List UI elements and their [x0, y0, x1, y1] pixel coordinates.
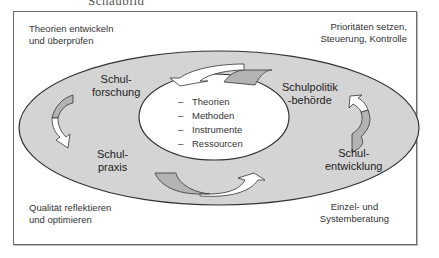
list-item: –Theorien [178, 95, 243, 109]
corner-line: Theorien entwickeln [29, 23, 114, 35]
node-line: forschung [92, 86, 140, 99]
corner-line: Prioritäten setzen, [320, 21, 407, 33]
node-line: -behörde [282, 94, 338, 107]
list-item-label: Instrumente [192, 124, 242, 135]
node-schulpolitik: Schulpolitik -behörde [282, 81, 338, 107]
node-schulentwicklung: Schul- entwicklung [325, 147, 382, 173]
bullet: – [178, 137, 192, 151]
corner-label-top-left: Theorien entwickeln und überprüfen [29, 23, 114, 47]
corner-line: und überprüfen [29, 35, 114, 47]
node-schulpraxis: Schul- praxis [97, 148, 128, 174]
list-item-label: Ressourcen [192, 138, 243, 149]
corner-line: und optimieren [29, 214, 111, 226]
node-schulforschung: Schul- forschung [92, 73, 140, 99]
node-line: Schul- [325, 147, 382, 160]
list-item-label: Methoden [192, 110, 234, 121]
list-item-label: Theorien [192, 96, 230, 107]
corner-label-bottom-right: Einzel- und Systemberatung [320, 201, 389, 225]
bullet: – [178, 109, 192, 123]
node-line: praxis [97, 161, 128, 174]
corner-line: Steuerung, Kontrolle [320, 33, 407, 45]
corner-line: Qualität reflektieren [29, 202, 111, 214]
node-line: Schul- [97, 148, 128, 161]
list-item: –Instrumente [178, 123, 243, 137]
center-resource-list: –Theorien –Methoden –Instrumente –Ressou… [178, 95, 243, 151]
node-line: Schulpolitik [282, 81, 338, 94]
list-item: –Ressourcen [178, 137, 243, 151]
corner-label-top-right: Prioritäten setzen, Steuerung, Kontrolle [320, 21, 407, 45]
corner-line: Einzel- und [320, 201, 389, 213]
list-item: –Methoden [178, 109, 243, 123]
node-line: Schul- [92, 73, 140, 86]
corner-label-bottom-left: Qualität reflektieren und optimieren [29, 202, 111, 226]
node-line: entwicklung [325, 160, 382, 173]
bullet: – [178, 123, 192, 137]
bullet: – [178, 95, 192, 109]
corner-line: Systemberatung [320, 213, 389, 225]
